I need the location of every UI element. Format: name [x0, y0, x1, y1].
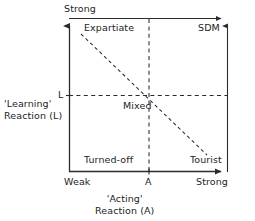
y-axis-title-line1: 'Learning'	[4, 98, 51, 109]
y-axis-title: 'Learning' Reaction (L)	[4, 98, 66, 123]
x-axis-high-label: Strong	[196, 176, 228, 187]
trade-off-diagonal-line	[81, 34, 207, 155]
x-axis-title-line2: Reaction (A)	[95, 205, 154, 216]
reference-lines	[69, 19, 227, 172]
x-axis-low-label: Weak	[64, 176, 90, 187]
quadrant-label-top-left: Expartiate	[84, 22, 134, 33]
x-axis-tick-label-a: A	[145, 176, 152, 187]
quadrant-label-bottom-left: Turned-off	[84, 154, 133, 165]
quadrant-label-bottom-right: Tourist	[190, 154, 222, 165]
y-axis-high-label: Strong	[64, 3, 96, 14]
x-axis-title: 'Acting' Reaction (A)	[95, 193, 154, 218]
y-axis-title-line2: Reaction (L)	[4, 110, 62, 121]
quadrant-label-top-right: SDM	[198, 22, 220, 33]
x-axis-title-line1: 'Acting'	[107, 193, 143, 204]
quadrant-label-center: Mixed	[123, 100, 152, 111]
